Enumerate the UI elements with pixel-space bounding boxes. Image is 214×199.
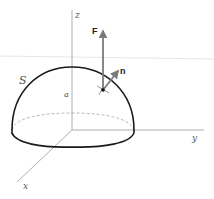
x-axis (17, 130, 72, 182)
radius-label: a (64, 90, 69, 99)
hemisphere-outline (12, 67, 134, 134)
hemisphere-diagram: z y x S a F n (0, 0, 214, 199)
vector-f-label: F (92, 26, 98, 36)
surface-label: S (19, 74, 27, 87)
surface-point (101, 88, 105, 92)
background-rule-line (0, 56, 214, 59)
x-axis-label: x (23, 181, 28, 191)
y-axis-label: y (191, 133, 198, 143)
z-axis-label: z (74, 10, 80, 20)
vector-n-arrow (103, 71, 118, 90)
vector-n-label: n (120, 66, 126, 76)
base-ellipse-back-dashed (12, 113, 134, 130)
base-ellipse-front (12, 133, 134, 147)
